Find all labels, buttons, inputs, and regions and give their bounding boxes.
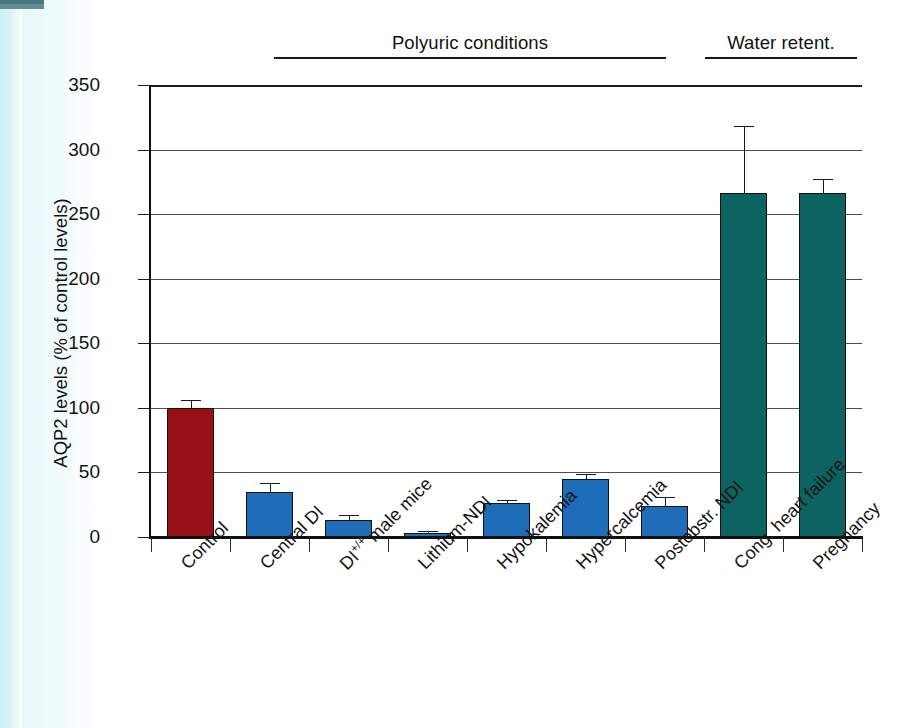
error-bar-cap (734, 126, 754, 127)
group-header-polyuric: Polyuric conditions (274, 32, 666, 59)
y-tick-label: 50 (44, 461, 100, 483)
y-tick-label: 150 (44, 332, 100, 354)
plot-top-border (151, 85, 862, 87)
error-bar-cap (813, 179, 833, 180)
error-bar-cap (339, 515, 359, 516)
error-bar (744, 126, 745, 193)
y-axis-line (149, 85, 151, 537)
y-tick-mark (138, 343, 151, 344)
y-tick-mark (138, 279, 151, 280)
plot-area (151, 85, 862, 537)
y-tick-label: 350 (44, 74, 100, 96)
error-bar (823, 179, 824, 193)
error-bar (191, 400, 192, 408)
bar (167, 408, 214, 537)
error-bar-cap (497, 500, 517, 501)
gridline (151, 150, 862, 151)
y-tick-label: 250 (44, 203, 100, 225)
y-axis-tick-labels: 050100150200250300350 (40, 0, 100, 728)
y-tick-mark (138, 85, 151, 86)
y-tick-mark (138, 150, 151, 151)
group-header-water-retention: Water retent. (705, 32, 857, 59)
y-tick-mark (138, 472, 151, 473)
error-bar (665, 497, 666, 506)
aqp2-bar-chart: Polyuric conditions Water retent. AQP2 l… (0, 0, 901, 728)
error-bar (270, 483, 271, 492)
group-header-polyuric-rule (274, 57, 666, 59)
group-header-water-retention-label: Water retent. (705, 32, 857, 54)
group-header-polyuric-label: Polyuric conditions (274, 32, 666, 54)
error-bar-cap (260, 483, 280, 484)
y-tick-label: 100 (44, 397, 100, 419)
error-bar-cap (576, 474, 596, 475)
error-bar-cap (181, 400, 201, 401)
y-tick-label: 300 (44, 139, 100, 161)
y-tick-label: 200 (44, 268, 100, 290)
y-tick-mark (138, 214, 151, 215)
y-tick-mark (138, 408, 151, 409)
y-tick-label: 0 (44, 526, 100, 548)
group-header-water-retention-rule (705, 57, 857, 59)
error-bar-cap (418, 531, 438, 532)
y-tick-mark (138, 537, 151, 538)
x-axis-category-labels: ControlCentral DIDI+/+ male miceLithium-… (151, 537, 891, 728)
